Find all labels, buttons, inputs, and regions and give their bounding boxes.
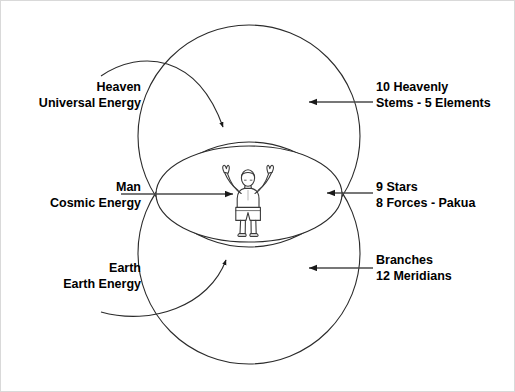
label-stars-line2: 8 Forces - Pakua <box>376 195 515 211</box>
person-left-hand <box>223 165 229 173</box>
label-branches-meridians: Branches 12 Meridians <box>376 252 515 284</box>
person-right-foot <box>250 234 258 237</box>
diagram-canvas: Heaven Universal Energy Man Cosmic Energ… <box>0 0 515 392</box>
label-stems-line2: Stems - 5 Elements <box>376 95 515 111</box>
person-left-foot <box>238 234 246 237</box>
label-man: Man Cosmic Energy <box>1 179 141 211</box>
person-right-hand <box>267 165 273 173</box>
label-man-line1: Man <box>1 179 141 195</box>
label-stems-line1: 10 Heavenly <box>376 79 515 95</box>
label-branches-line1: Branches <box>376 252 515 268</box>
label-man-line2: Cosmic Energy <box>1 195 141 211</box>
label-branches-line2: 12 Meridians <box>376 268 515 284</box>
label-earth-line1: Earth <box>1 260 141 276</box>
label-stars-line1: 9 Stars <box>376 179 515 195</box>
label-heaven-line1: Heaven <box>1 79 141 95</box>
label-heaven-line2: Universal Energy <box>1 95 141 111</box>
label-nine-stars: 9 Stars 8 Forces - Pakua <box>376 179 515 211</box>
label-heavenly-stems: 10 Heavenly Stems - 5 Elements <box>376 79 515 111</box>
label-heaven: Heaven Universal Energy <box>1 79 141 111</box>
label-earth-line2: Earth Energy <box>1 276 141 292</box>
label-earth: Earth Earth Energy <box>1 260 141 292</box>
